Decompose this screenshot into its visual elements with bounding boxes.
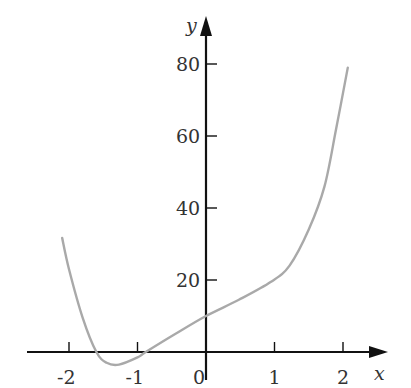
chart-canvas: -2-101220406080 x y	[0, 0, 411, 388]
y-tick-label: 20	[176, 269, 200, 291]
x-tick-label: -1	[126, 366, 145, 388]
y-tick-label: 60	[176, 125, 200, 147]
x-axis-arrow-icon	[369, 346, 388, 358]
axes	[27, 16, 388, 380]
y-tick-label: 40	[176, 197, 200, 219]
y-axis-label: y	[185, 14, 197, 36]
x-tick-label: 1	[269, 366, 281, 388]
y-axis-arrow-icon	[200, 16, 212, 36]
x-axis-label: x	[374, 362, 385, 384]
y-tick-label: 80	[176, 53, 200, 75]
x-tick-label: 0	[193, 366, 205, 388]
x-tick-label: -2	[57, 366, 76, 388]
tick-labels: -2-101220406080	[57, 53, 349, 388]
x-tick-label: 2	[337, 366, 349, 388]
